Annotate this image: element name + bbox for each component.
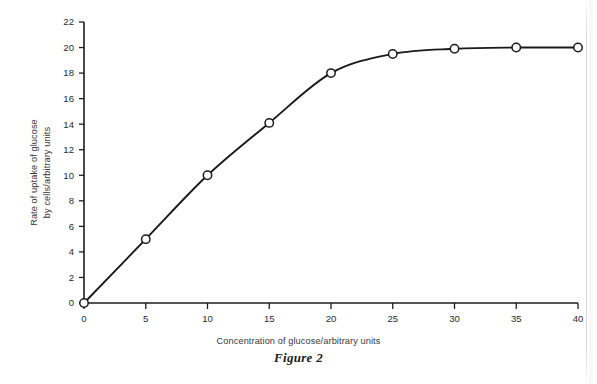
y-tick-label-0: 0 xyxy=(69,297,74,308)
y-tick-label-14: 14 xyxy=(63,119,74,130)
data-point-marker xyxy=(203,171,211,179)
x-tick-label-5: 5 xyxy=(143,313,148,324)
y-tick-label-6: 6 xyxy=(69,221,74,232)
y-tick-label-22: 22 xyxy=(63,16,74,27)
x-axis-label: Concentration of glucose/arbitrary units xyxy=(0,336,597,346)
x-tick-label-20: 20 xyxy=(326,313,337,324)
page-edge-shadow xyxy=(589,0,597,384)
x-tick-label-10: 10 xyxy=(202,313,213,324)
data-point-marker xyxy=(142,235,150,243)
glucose-uptake-line-chart: 02468101214161820220510152025303540 xyxy=(0,0,597,384)
y-tick-label-10: 10 xyxy=(63,170,74,181)
y-axis-label: Rate of uptake of glucose by cells/arbit… xyxy=(28,73,53,273)
y-axis-label-line2: by cells/arbitrary units xyxy=(40,73,53,273)
y-tick-label-4: 4 xyxy=(69,246,75,257)
data-point-marker xyxy=(327,69,335,77)
y-tick-label-2: 2 xyxy=(69,272,74,283)
y-tick-label-12: 12 xyxy=(63,144,74,155)
x-tick-label-30: 30 xyxy=(449,313,460,324)
figure-page: 02468101214161820220510152025303540 Rate… xyxy=(0,0,597,384)
x-tick-label-15: 15 xyxy=(264,313,275,324)
data-point-marker xyxy=(574,43,582,51)
x-tick-label-25: 25 xyxy=(387,313,398,324)
data-curve xyxy=(84,47,578,303)
y-tick-label-20: 20 xyxy=(63,42,74,53)
data-point-marker xyxy=(80,299,88,307)
data-point-marker xyxy=(450,45,458,53)
page-edge-line xyxy=(586,0,587,384)
figure-caption: Figure 2 xyxy=(0,350,597,366)
y-tick-label-18: 18 xyxy=(63,67,74,78)
x-tick-label-40: 40 xyxy=(573,313,584,324)
y-tick-label-8: 8 xyxy=(69,195,74,206)
data-point-marker xyxy=(512,43,520,51)
y-axis-label-line1: Rate of uptake of glucose xyxy=(28,73,41,273)
data-point-marker xyxy=(389,50,397,58)
y-tick-label-16: 16 xyxy=(63,93,74,104)
data-point-marker xyxy=(265,119,273,127)
x-tick-label-0: 0 xyxy=(81,313,86,324)
x-tick-label-35: 35 xyxy=(511,313,522,324)
